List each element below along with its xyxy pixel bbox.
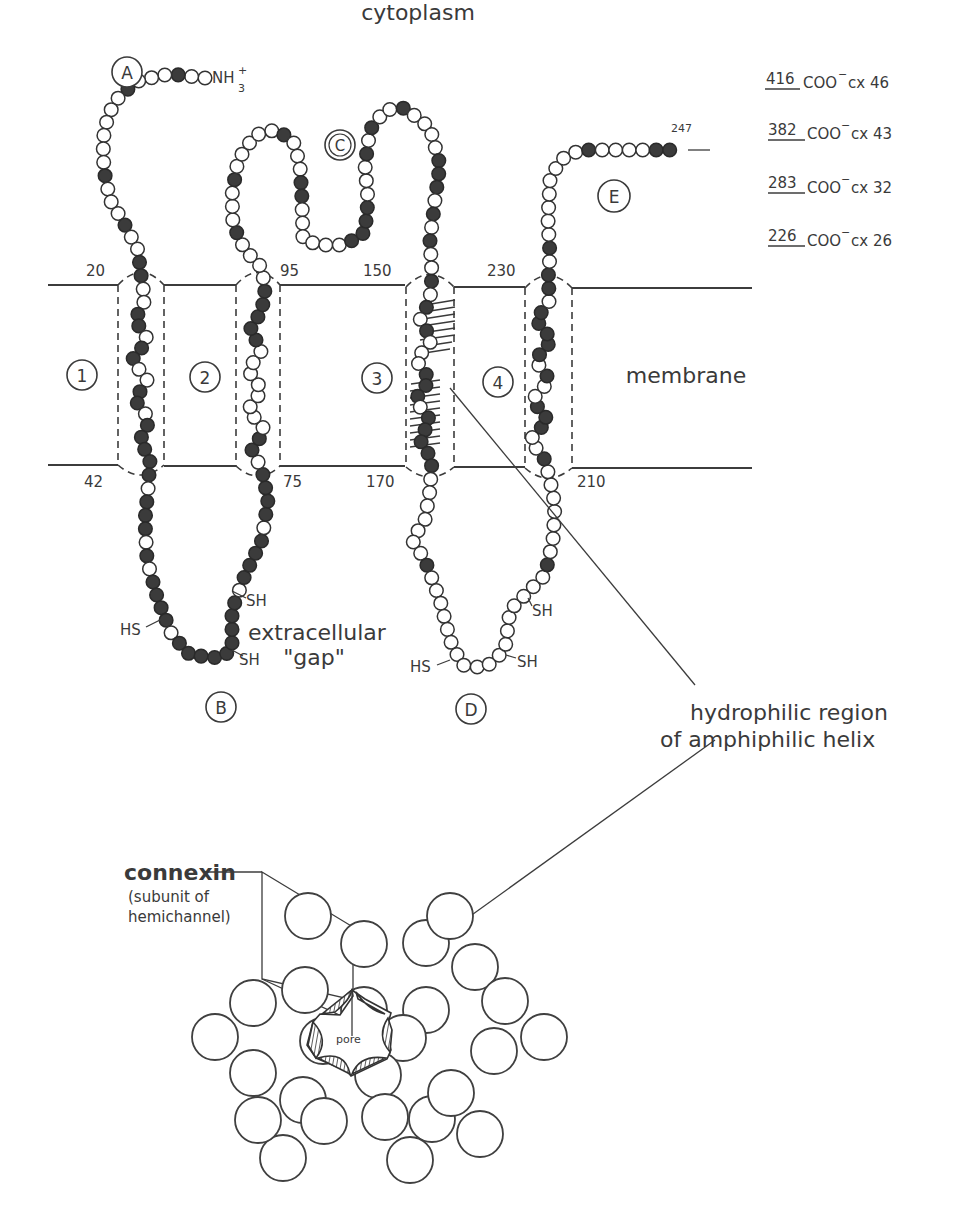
svg-text:HS: HS (410, 658, 431, 676)
svg-text:COO: COO (807, 125, 841, 143)
svg-text:1: 1 (77, 366, 88, 386)
pore-label: pore (336, 1033, 361, 1046)
svg-text:3: 3 (238, 82, 245, 95)
connexin-topology-diagram: A B C D E 1 2 3 4 20 42 95 75 150 170 23… (0, 0, 957, 1223)
svg-text:4: 4 (493, 373, 504, 393)
svg-text:SH: SH (517, 653, 538, 671)
domain-label-e: E (598, 180, 630, 212)
svg-text:416: 416 (766, 70, 795, 88)
svg-text:COO: COO (807, 232, 841, 250)
gap-label: "gap" (283, 645, 345, 670)
residue-number-42: 42 (84, 473, 103, 491)
connexin-sublabel-2: hemichannel) (128, 908, 231, 926)
svg-text:COO: COO (807, 179, 841, 197)
annotation-line-1: hydrophilic region (690, 700, 888, 725)
svg-text:2: 2 (200, 368, 211, 388)
svg-text:+: + (238, 64, 247, 77)
variant-cx46: 416 COO − cx 46 (765, 68, 889, 92)
extracellular-label: extracellular (248, 620, 387, 645)
svg-text:COO: COO (803, 74, 837, 92)
svg-text:cx 46: cx 46 (848, 74, 889, 92)
residue-number-170: 170 (366, 473, 395, 491)
svg-text:D: D (464, 700, 477, 720)
residue-number-75: 75 (283, 473, 302, 491)
annotation-line-2: of amphiphilic helix (660, 727, 875, 752)
svg-text:−: − (838, 68, 847, 81)
cytoplasm-label: cytoplasm (361, 0, 475, 25)
svg-text:cx 43: cx 43 (851, 125, 892, 143)
svg-text:NH: NH (212, 69, 235, 87)
svg-text:3: 3 (372, 369, 383, 389)
svg-text:C: C (335, 137, 345, 155)
connexin-label: connexin (124, 860, 236, 885)
svg-text:SH: SH (246, 592, 267, 610)
variant-cx43: 382 COO − cx 43 (768, 119, 892, 143)
connexin-sublabel-1: (subunit of (128, 888, 210, 906)
residue-number-95: 95 (280, 262, 299, 280)
svg-text:cx 32: cx 32 (851, 179, 892, 197)
tm-label-4: 4 (483, 367, 513, 397)
hemichannel: connexin (subunit of hemichannel) pore (124, 860, 567, 1183)
domain-label-c: C (325, 130, 355, 160)
residue-number-230: 230 (487, 262, 516, 280)
tm-label-1: 1 (67, 360, 97, 390)
svg-text:−: − (841, 226, 850, 239)
svg-text:382: 382 (768, 121, 797, 139)
svg-text:283: 283 (768, 174, 797, 192)
membrane-label: membrane (626, 363, 746, 388)
svg-text:cx 26: cx 26 (851, 232, 892, 250)
tm-label-2: 2 (190, 362, 220, 392)
svg-text:HS: HS (120, 621, 141, 639)
domain-label-a: A (112, 57, 142, 87)
variant-cx26: 226 COO − cx 26 (768, 226, 892, 250)
c-terminal-variants-list: 416 COO − cx 46 382 COO − cx 43 283 COO … (765, 68, 892, 250)
c-terminus-residue-247: 247 (671, 122, 692, 135)
svg-text:−: − (841, 173, 850, 186)
domain-label-b: B (206, 692, 236, 722)
n-terminus-label: NH 3 + (212, 64, 247, 95)
svg-text:E: E (609, 187, 620, 207)
residue-number-20: 20 (86, 262, 105, 280)
svg-text:SH: SH (532, 602, 553, 620)
domain-label-d: D (456, 694, 486, 724)
svg-text:A: A (121, 63, 133, 83)
residue-number-210: 210 (577, 473, 606, 491)
svg-text:−: − (841, 119, 850, 132)
svg-text:B: B (215, 698, 227, 718)
svg-text:SH: SH (239, 651, 260, 669)
tm-label-3: 3 (362, 363, 392, 393)
svg-text:226: 226 (768, 227, 797, 245)
variant-cx32: 283 COO − cx 32 (768, 173, 892, 197)
residue-number-150: 150 (363, 262, 392, 280)
